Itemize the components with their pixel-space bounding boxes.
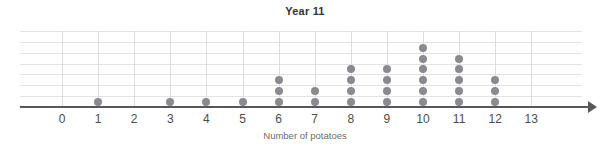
x-axis-tick-label: 1: [83, 112, 113, 126]
x-axis-tick-label: 11: [444, 112, 474, 126]
data-dot: [311, 98, 319, 106]
gridline-horizontal: [20, 96, 582, 97]
x-axis-tick-label: 4: [191, 112, 221, 126]
x-axis-tick-label: 12: [480, 112, 510, 126]
x-axis-tick-label: 5: [228, 112, 258, 126]
gridline-vertical: [315, 31, 316, 107]
x-axis-tick-label: 13: [516, 112, 546, 126]
chart-title: Year 11: [0, 5, 610, 17]
gridline-vertical: [62, 31, 63, 107]
data-dot: [419, 44, 427, 52]
data-dot: [239, 98, 247, 106]
x-axis-tick-label: 0: [47, 112, 77, 126]
data-dot: [275, 76, 283, 84]
gridline-vertical: [531, 31, 532, 107]
x-axis-line: [20, 106, 593, 108]
x-axis-tick-label: 3: [155, 112, 185, 126]
x-axis-arrow-icon: [588, 101, 597, 113]
data-dot: [347, 87, 355, 95]
gridline-vertical: [134, 31, 135, 107]
data-dot: [419, 98, 427, 106]
gridline-vertical: [243, 31, 244, 107]
data-dot: [275, 98, 283, 106]
gridline-vertical: [170, 31, 171, 107]
plot-area: [20, 31, 582, 107]
gridline-horizontal: [20, 31, 582, 32]
gridline-horizontal: [20, 53, 582, 54]
gridline-vertical: [98, 31, 99, 107]
x-axis-tick-label: 8: [336, 112, 366, 126]
gridline-vertical: [495, 31, 496, 107]
data-dot: [275, 87, 283, 95]
gridline-horizontal: [20, 74, 582, 75]
dot-plot-chart: Year 11 012345678910111213 Number of pot…: [0, 0, 610, 153]
x-axis-tick-label: 6: [264, 112, 294, 126]
data-dot: [311, 87, 319, 95]
x-axis-tick-label: 2: [119, 112, 149, 126]
x-axis-tick-label: 7: [300, 112, 330, 126]
data-dot: [383, 87, 391, 95]
gridline-vertical: [206, 31, 207, 107]
gridline-horizontal: [20, 85, 582, 86]
x-axis-tick-label: 10: [408, 112, 438, 126]
gridline-horizontal: [20, 64, 582, 65]
data-dot: [383, 98, 391, 106]
x-axis-tick-label: 9: [372, 112, 402, 126]
data-dot: [455, 55, 463, 63]
x-axis-title: Number of potatoes: [0, 130, 610, 141]
gridline-vertical: [279, 31, 280, 107]
gridline-horizontal: [20, 42, 582, 43]
data-dot: [347, 98, 355, 106]
data-dot: [419, 55, 427, 63]
